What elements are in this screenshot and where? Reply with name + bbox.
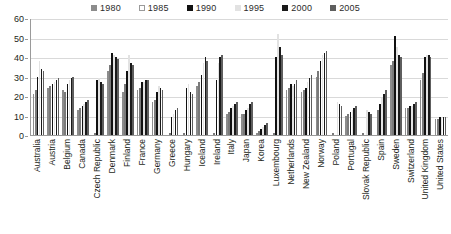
x-tick-label: Czech Republic — [93, 139, 102, 199]
bar — [177, 108, 179, 135]
x-tick-label: Australia — [33, 139, 42, 172]
y-tick-mark — [25, 97, 28, 98]
bar-group — [359, 19, 374, 135]
x-tick-label: Japan — [242, 139, 251, 162]
bar-group — [46, 19, 61, 135]
legend-label: 2000 — [291, 4, 312, 13]
x-axis-label-cell: Greece — [164, 138, 179, 234]
legend-item-2005[interactable]: 2005 — [330, 4, 360, 13]
x-tick-label: Ireland — [212, 139, 221, 165]
x-tick-label: Denmark — [108, 139, 117, 173]
legend-label: 1990 — [196, 4, 217, 13]
legend-item-1995[interactable]: 1995 — [235, 4, 265, 13]
x-axis-labels: AustraliaAustriaBelgiumCanadaCzech Repub… — [30, 138, 448, 234]
x-tick-label: United States — [436, 139, 445, 190]
bar — [341, 106, 343, 135]
bar-group — [180, 19, 195, 135]
y-tick-label: 60 — [14, 15, 24, 24]
legend-item-1985[interactable]: 1985 — [139, 4, 169, 13]
bar — [370, 114, 372, 135]
bar-group — [254, 19, 269, 135]
x-axis-label-cell: Switzerland — [403, 138, 418, 234]
x-axis-label-cell: Luxembourg — [269, 138, 284, 234]
bar — [430, 57, 432, 135]
y-tick-mark — [25, 136, 28, 137]
y-tick-label: 50 — [14, 34, 24, 43]
x-tick-label: Switzerland — [406, 139, 415, 183]
y-tick-label: 10 — [14, 112, 24, 121]
bar-group — [388, 19, 403, 135]
chart-legend: 198019851990199520002005 — [0, 1, 451, 15]
x-axis-label-cell: Ireland — [209, 138, 224, 234]
bar-group — [284, 19, 299, 135]
bar-group — [418, 19, 433, 135]
bar — [147, 80, 149, 135]
x-axis-label-cell: Hungary — [179, 138, 194, 234]
x-tick-label: Netherlands — [287, 139, 296, 185]
bar — [132, 65, 134, 135]
x-axis-label-cell: Belgium — [60, 138, 75, 234]
x-axis-label-cell: Portugal — [343, 138, 358, 234]
x-axis-label-cell: Slovak Republic — [358, 138, 373, 234]
bar-groups — [31, 19, 448, 135]
bar — [206, 61, 208, 135]
bar-group — [61, 19, 76, 135]
bar-group — [329, 19, 344, 135]
y-tick-mark — [25, 78, 28, 79]
x-axis-label-cell: United States — [433, 138, 448, 234]
bar — [385, 90, 387, 135]
x-tick-label: Greece — [168, 139, 177, 167]
x-axis-label-cell: Australia — [30, 138, 45, 234]
x-tick-label: Austria — [48, 139, 57, 165]
bar-group — [239, 19, 254, 135]
legend-swatch-icon — [282, 5, 288, 11]
legend-label: 2005 — [339, 4, 360, 13]
x-axis-label-cell: Iceland — [194, 138, 209, 234]
legend-item-1990[interactable]: 1990 — [187, 4, 217, 13]
legend-item-2000[interactable]: 2000 — [282, 4, 312, 13]
bar-group — [314, 19, 329, 135]
plot-area — [30, 19, 448, 136]
bar-group — [299, 19, 314, 135]
x-tick-label: New Zealand — [302, 139, 311, 189]
legend-label: 1985 — [148, 4, 169, 13]
y-tick-mark — [25, 58, 28, 59]
bar-group — [105, 19, 120, 135]
bar — [281, 55, 283, 135]
legend-swatch-icon — [91, 5, 97, 11]
bar-group — [165, 19, 180, 135]
y-tick-mark — [25, 19, 28, 20]
bar-group — [210, 19, 225, 135]
x-tick-label: Slovak Republic — [361, 139, 370, 200]
x-tick-label: France — [138, 139, 147, 165]
x-axis-label-cell: Italy — [224, 138, 239, 234]
bar-group — [433, 19, 448, 135]
legend-label: 1980 — [100, 4, 121, 13]
bar-group — [31, 19, 46, 135]
chart-container: 198019851990199520002005 0102030405060 A… — [0, 0, 451, 234]
legend-swatch-icon — [330, 5, 336, 11]
x-axis-label-cell: New Zealand — [299, 138, 314, 234]
y-axis: 0102030405060 — [0, 19, 28, 137]
bar — [415, 102, 417, 135]
x-axis-label-cell: Sweden — [388, 138, 403, 234]
bar — [445, 117, 447, 135]
legend-item-1980[interactable]: 1980 — [91, 4, 121, 13]
bar — [400, 57, 402, 135]
bar — [236, 102, 238, 135]
x-axis-label-cell: Austria — [45, 138, 60, 234]
x-tick-label: Norway — [317, 139, 326, 168]
y-tick-mark — [25, 117, 28, 118]
bar — [311, 75, 313, 135]
bar-group — [135, 19, 150, 135]
x-tick-label: Finland — [123, 139, 132, 167]
x-axis-label-cell: Spain — [373, 138, 388, 234]
x-tick-label: Hungary — [182, 139, 191, 171]
x-axis-label-cell: Norway — [314, 138, 329, 234]
x-axis-label-cell: Canada — [75, 138, 90, 234]
bar — [87, 100, 89, 135]
bar-group — [344, 19, 359, 135]
x-tick-label: Iceland — [197, 139, 206, 166]
x-tick-label: Spain — [376, 139, 385, 161]
x-axis-label-cell: United Kingdom — [418, 138, 433, 234]
